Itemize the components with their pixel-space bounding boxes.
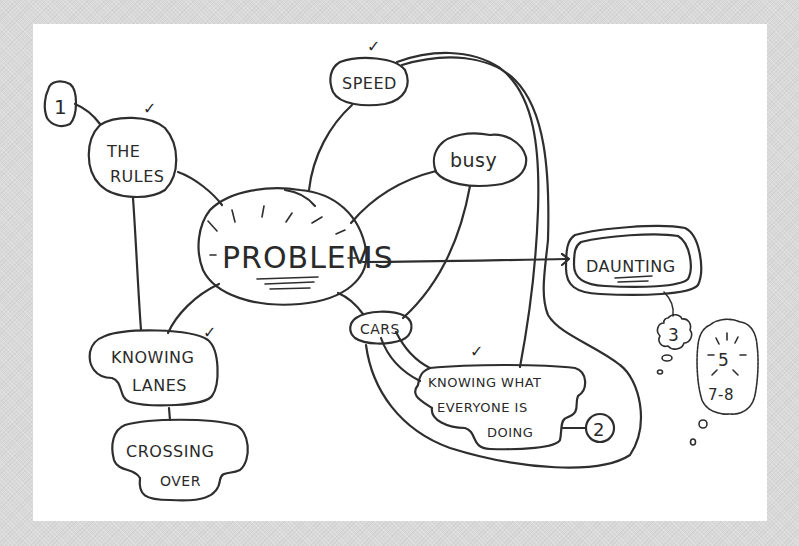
badge-3-label: 3 bbox=[668, 325, 679, 345]
dash bbox=[232, 210, 235, 222]
crossing-over-line-1: CROSSING bbox=[126, 442, 214, 461]
dash bbox=[208, 221, 217, 231]
node-the-rules[interactable]: THE RULES ✓ bbox=[89, 99, 177, 197]
underline bbox=[257, 277, 318, 279]
thought-bubble bbox=[691, 439, 696, 445]
node-crossing-over[interactable]: CROSSING OVER bbox=[112, 420, 247, 501]
badge-2[interactable]: 2 bbox=[586, 414, 614, 442]
thought-bubble bbox=[658, 370, 663, 374]
underline bbox=[270, 288, 310, 289]
underline bbox=[265, 282, 314, 284]
connector-problems-cars bbox=[338, 293, 363, 314]
the-rules-line-2: RULES bbox=[110, 167, 165, 186]
cars-label: CARS bbox=[360, 321, 400, 337]
checkmark-icon: ✓ bbox=[203, 323, 217, 342]
thought-bubble bbox=[699, 420, 707, 428]
node-knowing-lanes[interactable]: KNOWING LANES ✓ bbox=[90, 323, 218, 405]
daunting-label: DAUNTING bbox=[586, 257, 676, 276]
thought-bubble bbox=[662, 355, 672, 361]
connector-busy-cars bbox=[403, 186, 470, 318]
badge-1[interactable]: 1 bbox=[45, 82, 76, 126]
busy-label: busy bbox=[450, 149, 497, 171]
dash bbox=[336, 230, 345, 234]
node-speed[interactable]: SPEED ✓ bbox=[330, 37, 407, 105]
badge-1-label: 1 bbox=[54, 95, 67, 119]
connector-badge1-rules bbox=[75, 104, 100, 124]
node-daunting[interactable]: DAUNTING bbox=[566, 226, 701, 295]
dash bbox=[312, 217, 322, 223]
connector-rules-lanes bbox=[133, 198, 141, 330]
connector-speed-problems bbox=[309, 105, 352, 190]
dash bbox=[262, 206, 264, 217]
dash bbox=[286, 213, 292, 222]
badge-5-7-8[interactable]: 5 7-8 bbox=[691, 319, 759, 445]
connector-cars-knowing-1 bbox=[381, 338, 420, 381]
connector-lanes-crossing bbox=[169, 408, 170, 420]
knowing-what-line-3: DOING bbox=[487, 425, 533, 440]
checkmark-icon: ✓ bbox=[143, 99, 157, 118]
badge-5-label: 5 bbox=[718, 350, 729, 370]
underline bbox=[615, 276, 652, 278]
checkmark-icon: ✓ bbox=[367, 37, 381, 56]
knowing-what-line-2: EVERYONE IS bbox=[437, 400, 528, 415]
node-busy[interactable]: busy bbox=[434, 133, 526, 185]
knowing-lanes-line-2: LANES bbox=[132, 376, 187, 395]
connector-daunting-badge3 bbox=[664, 292, 673, 316]
speed-label: SPEED bbox=[342, 74, 397, 93]
node-knowing-what[interactable]: KNOWING WHAT EVERYONE IS DOING ✓ bbox=[415, 342, 585, 449]
badge-7-8-label: 7-8 bbox=[708, 386, 734, 404]
underline bbox=[618, 281, 648, 282]
knowing-lanes-line-1: KNOWING bbox=[111, 348, 194, 367]
connector-cars-knowing-2 bbox=[396, 332, 430, 368]
problems-label: PROBLEMS bbox=[222, 240, 394, 275]
knowing-what-line-1: KNOWING WHAT bbox=[428, 375, 542, 390]
badge-2-label: 2 bbox=[593, 419, 605, 440]
connector-speed-knowing-outer bbox=[397, 53, 538, 367]
node-problems[interactable]: PROBLEMS bbox=[199, 188, 394, 305]
badge-3[interactable]: 3 bbox=[657, 315, 691, 374]
connector-rules-problems bbox=[178, 172, 222, 205]
mind-map-canvas: PROBLEMS 1 THE RULES ✓ SPEED ✓ busy DAUN… bbox=[0, 0, 799, 546]
checkmark-icon: ✓ bbox=[470, 342, 484, 361]
the-rules-line-1: THE bbox=[106, 142, 140, 161]
crossing-over-line-2: OVER bbox=[160, 473, 201, 489]
connector-busy-problems bbox=[351, 171, 436, 223]
